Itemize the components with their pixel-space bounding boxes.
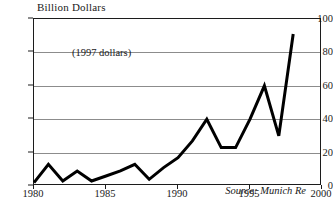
source-attribution: Source: Munich Re: [225, 185, 306, 196]
y-axis-tick-label: 20: [305, 146, 333, 157]
x-axis-tick-mark: [321, 185, 322, 189]
y-axis-tick-mark: [28, 151, 33, 152]
y-axis-tick-mark: [28, 118, 33, 119]
x-axis-tick-mark: [249, 185, 250, 189]
y-axis-tick-label: 100: [305, 13, 333, 24]
y-axis-tick-label: 80: [305, 46, 333, 57]
x-axis-tick-mark: [105, 185, 106, 189]
chart-title: Billion Dollars: [37, 1, 106, 13]
y-axis-tick-mark: [28, 18, 33, 19]
plot-area: (1997 dollars) Source: Munich Re: [33, 18, 321, 185]
x-axis-tick-mark: [177, 185, 178, 189]
x-axis-tick-label: 1985: [95, 188, 116, 199]
y-axis-tick-label: 40: [305, 113, 333, 124]
chart-figure: Billion Dollars (1997 dollars) Source: M…: [0, 0, 333, 220]
x-axis-tick-label: 1980: [23, 188, 44, 199]
data-series-line: [34, 19, 322, 186]
x-axis-tick-label: 1995: [239, 188, 260, 199]
currency-annotation: (1997 dollars): [72, 47, 131, 58]
x-axis-tick-mark: [33, 185, 34, 189]
y-axis-tick-mark: [28, 84, 33, 85]
x-axis-tick-label: 1990: [167, 188, 188, 199]
x-axis-tick-label: 2000: [311, 188, 332, 199]
y-axis-tick-label: 60: [305, 79, 333, 90]
y-axis-tick-mark: [28, 51, 33, 52]
